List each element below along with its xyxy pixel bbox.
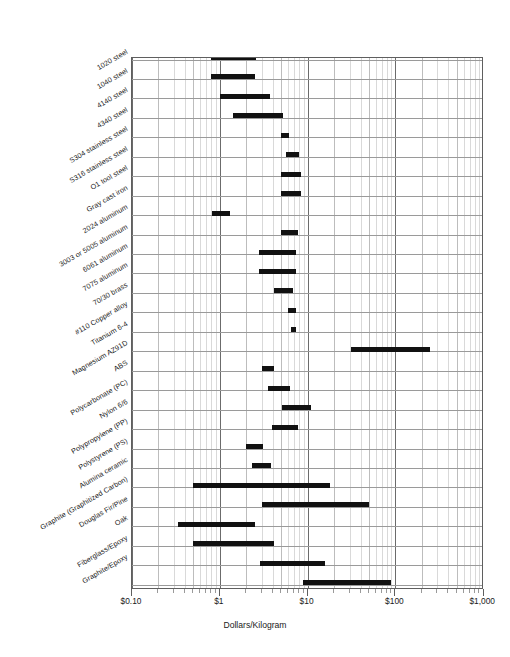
x-axis-tick-mark — [469, 589, 470, 593]
range-bar — [281, 133, 289, 138]
range-bar — [212, 211, 230, 216]
x-axis-tick-mark — [184, 589, 185, 593]
x-axis-tick-mark — [245, 589, 246, 593]
range-bar — [303, 580, 392, 585]
plot-area — [131, 57, 483, 589]
x-axis-tick-mark — [272, 589, 273, 593]
range-bar — [178, 522, 255, 527]
x-axis-tick-mark — [478, 589, 479, 593]
range-bar — [272, 425, 298, 430]
x-axis-tick-mark — [421, 589, 422, 593]
x-axis-tick-mark — [199, 589, 200, 593]
x-axis-tick-mark — [307, 589, 308, 596]
x-axis-title: Dollars/Kilogram — [0, 620, 510, 630]
x-axis-tick-mark — [390, 589, 391, 593]
x-axis-tick-mark — [463, 589, 464, 593]
x-axis-tick-mark — [205, 589, 206, 593]
grid-line-horizontal — [132, 79, 482, 80]
range-bar — [281, 191, 301, 196]
x-axis-tick-mark — [293, 589, 294, 593]
grid-line-horizontal — [132, 332, 482, 333]
grid-line-horizontal — [132, 273, 482, 274]
range-bar — [233, 113, 283, 118]
x-axis-tick-label: $10 — [300, 596, 314, 606]
grid-line-horizontal — [132, 254, 482, 255]
x-axis-tick-mark — [157, 589, 158, 593]
x-axis-tick-mark — [386, 589, 387, 593]
x-axis-tick-mark — [131, 589, 132, 596]
range-bar — [288, 308, 296, 313]
x-axis-tick-label: $1,000 — [469, 596, 495, 606]
grid-line-horizontal — [132, 449, 482, 450]
grid-line-horizontal — [132, 546, 482, 547]
grid-line-horizontal — [132, 429, 482, 430]
grid-line-horizontal — [132, 98, 482, 99]
x-axis-tick-mark — [173, 589, 174, 593]
range-bar — [351, 347, 431, 352]
grid-line-horizontal — [132, 118, 482, 119]
x-axis-tick-mark — [261, 589, 262, 593]
x-axis-tick-mark — [360, 589, 361, 593]
range-bar — [286, 152, 299, 157]
range-bar — [211, 74, 254, 79]
range-bar — [291, 327, 295, 332]
range-bar — [274, 288, 294, 293]
x-axis-tick-mark — [436, 589, 437, 593]
range-bar — [193, 541, 275, 546]
range-bar — [268, 386, 290, 391]
grid-line-horizontal — [132, 468, 482, 469]
x-axis-tick-mark — [287, 589, 288, 593]
x-axis-tick-mark — [474, 589, 475, 593]
x-axis-tick-mark — [280, 589, 281, 593]
range-bar — [281, 230, 298, 235]
range-bar — [193, 483, 330, 488]
x-axis-tick-label: $0.10 — [121, 596, 142, 606]
x-axis-tick-mark — [456, 589, 457, 593]
grid-line-horizontal — [132, 60, 482, 61]
x-axis-tick-mark — [381, 589, 382, 593]
x-axis-tick-mark — [483, 589, 484, 596]
x-axis-tick-mark — [333, 589, 334, 593]
y-axis-tick-label: Oak — [113, 513, 129, 528]
x-axis-tick-mark — [349, 589, 350, 593]
range-bar — [220, 94, 270, 99]
x-axis-tick-mark — [375, 589, 376, 593]
x-axis-tick-label: $100 — [385, 596, 404, 606]
x-axis-tick-mark — [215, 589, 216, 593]
grid-line-horizontal — [132, 176, 482, 177]
range-bar — [259, 269, 296, 274]
x-axis-tick-mark — [368, 589, 369, 593]
range-bar — [246, 444, 263, 449]
grid-line-horizontal — [132, 137, 482, 138]
grid-line-horizontal — [132, 215, 482, 216]
grid-line-horizontal — [132, 371, 482, 372]
chart-page: 1020 steel1040 steel4140 steel4340 steel… — [0, 0, 510, 657]
x-axis-tick-mark — [447, 589, 448, 593]
range-bar — [211, 57, 256, 60]
y-axis-tick-label: ABS — [112, 358, 129, 373]
range-bar — [259, 250, 296, 255]
grid-line-horizontal — [132, 235, 482, 236]
x-axis-tick-mark — [210, 589, 211, 593]
range-bar — [281, 172, 301, 177]
grid-line-horizontal — [132, 196, 482, 197]
grid-line-horizontal — [132, 312, 482, 313]
range-bar — [282, 405, 311, 410]
x-axis-tick-mark — [219, 589, 220, 596]
x-axis-tick-mark — [192, 589, 193, 593]
x-axis-tick-mark — [303, 589, 304, 593]
grid-line-horizontal — [132, 390, 482, 391]
range-bar — [262, 502, 369, 507]
range-bar — [262, 366, 274, 371]
grid-line-horizontal — [132, 293, 482, 294]
y-axis-tick-label: Magnesium AZ91D — [71, 338, 130, 377]
x-axis-tick-mark — [298, 589, 299, 593]
grid-line-horizontal — [132, 157, 482, 158]
range-bar — [252, 463, 271, 468]
range-bar — [260, 561, 325, 566]
x-axis-tick-label: $1 — [214, 596, 223, 606]
x-axis-tick-mark — [394, 589, 395, 596]
